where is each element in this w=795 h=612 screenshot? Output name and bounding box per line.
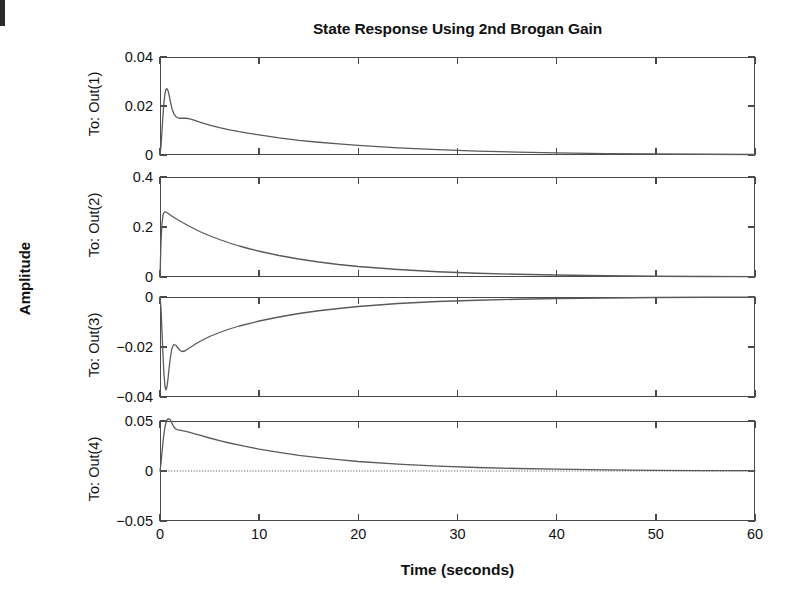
subplot-y-label-4: To: Out(4) xyxy=(86,399,102,539)
subplot-3: 0−0.02−0.04To: Out(3) xyxy=(160,297,755,397)
subplot-y-label-3: To: Out(3) xyxy=(86,275,102,415)
x-tick-label: 60 xyxy=(747,526,763,542)
y-axis-label: Amplitude xyxy=(16,219,33,339)
x-tick-label: 20 xyxy=(350,526,366,542)
x-tick-label: 50 xyxy=(648,526,664,542)
subplot-y-label-1: To: Out(1) xyxy=(86,35,102,173)
subplot-4: 0.050−0.05To: Out(4) xyxy=(160,421,755,521)
y-tick-label: 0.05 xyxy=(125,413,153,429)
y-tick-label: −0.02 xyxy=(116,339,153,355)
y-tick-label: 0.2 xyxy=(133,219,153,235)
curve-layer xyxy=(160,177,755,277)
subplot-1: 00.020.04To: Out(1) xyxy=(160,57,755,155)
y-tick-label: 0 xyxy=(145,269,153,285)
x-axis-label: Time (seconds) xyxy=(160,561,755,579)
response-curve-3 xyxy=(160,297,755,390)
x-tick-label: 0 xyxy=(156,526,164,542)
response-curve-2 xyxy=(160,212,755,277)
y-tick-label: −0.05 xyxy=(116,513,153,529)
y-tick-label: 0 xyxy=(145,289,153,305)
x-tick-label: 40 xyxy=(549,526,565,542)
y-tick-label: 0 xyxy=(145,147,153,163)
subplot-y-label-2: To: Out(2) xyxy=(86,155,102,295)
y-tick-label: 0.04 xyxy=(125,49,153,65)
x-tick-label: 30 xyxy=(449,526,465,542)
response-curve-4 xyxy=(160,419,755,471)
curve-layer xyxy=(160,57,755,155)
figure-canvas: State Response Using 2nd Brogan Gain Amp… xyxy=(0,0,795,612)
y-tick-label: −0.04 xyxy=(116,389,153,405)
subplot-2: 00.20.4To: Out(2) xyxy=(160,177,755,277)
curve-layer xyxy=(160,421,755,521)
chart-title: State Response Using 2nd Brogan Gain xyxy=(160,20,755,38)
page-edge-marker xyxy=(0,0,5,26)
y-tick-label: 0 xyxy=(145,463,153,479)
y-tick-label: 0.02 xyxy=(125,98,153,114)
y-tick-label: 0.4 xyxy=(133,169,153,185)
curve-layer xyxy=(160,297,755,397)
response-curve-1 xyxy=(160,89,755,155)
x-tick-label: 10 xyxy=(251,526,267,542)
